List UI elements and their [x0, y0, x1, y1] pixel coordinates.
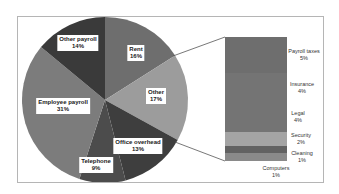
- bar-label-cleaning: Cleaning 1%: [291, 150, 313, 164]
- label-name: Other: [148, 89, 164, 96]
- bar-label-legal: Legal 4%: [291, 110, 304, 124]
- label-value: 31%: [38, 106, 88, 113]
- pie-label-telephone: Telephone 9%: [79, 157, 113, 173]
- bar-segment-computers[interactable]: [225, 153, 287, 161]
- label-value: 4%: [291, 117, 304, 124]
- label-value: 13%: [115, 146, 160, 153]
- label-name: Security: [291, 132, 311, 139]
- breakdown-bar: [225, 37, 287, 161]
- pie-label-other: Other 17%: [146, 88, 166, 104]
- label-name: Legal: [291, 110, 304, 117]
- bar-label-security: Security 2%: [291, 132, 311, 146]
- pie-label-rent: Rent 16%: [127, 45, 144, 61]
- label-value: 9%: [81, 165, 111, 172]
- bar-label-insurance: Insurance 4%: [290, 81, 314, 95]
- label-name: Cleaning: [291, 150, 313, 157]
- pie-label-other-payroll: Other payroll 14%: [57, 35, 98, 51]
- label-value: 5%: [288, 55, 320, 62]
- label-name: Telephone: [81, 158, 111, 165]
- bar-label-payroll-taxes: Payroll taxes 5%: [288, 48, 320, 62]
- bar-segment-legal[interactable]: [225, 103, 287, 132]
- label-name: Computers: [263, 165, 290, 172]
- label-value: 2%: [291, 139, 311, 146]
- bar-label-computers: Computers 1%: [263, 165, 290, 179]
- label-name: Insurance: [290, 81, 314, 88]
- label-value: 1%: [263, 172, 290, 179]
- bar-segment-security[interactable]: [225, 132, 287, 146]
- pie-label-employee-payroll: Employee payroll 31%: [36, 98, 90, 114]
- label-value: 4%: [290, 88, 314, 95]
- label-name: Employee payroll: [38, 99, 88, 106]
- label-name: Rent: [129, 46, 142, 53]
- bar-segment-insurance[interactable]: [225, 73, 287, 103]
- label-value: 16%: [129, 53, 142, 60]
- label-value: 1%: [291, 157, 313, 164]
- label-name: Office overhead: [115, 139, 160, 146]
- label-name: Other payroll: [59, 36, 96, 43]
- bar-segment-payroll-taxes[interactable]: [225, 37, 287, 73]
- bar-segment-cleaning[interactable]: [225, 146, 287, 153]
- label-value: 14%: [59, 43, 96, 50]
- pie-label-office-overhead: Office overhead 13%: [113, 138, 162, 154]
- label-value: 17%: [148, 96, 164, 103]
- label-name: Payroll taxes: [288, 48, 320, 55]
